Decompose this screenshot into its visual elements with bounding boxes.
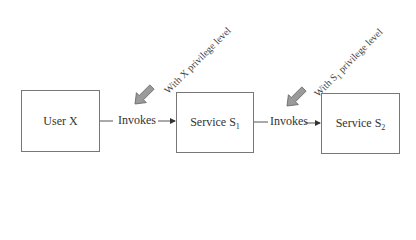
node-service-s2: Service S2 bbox=[321, 93, 400, 154]
node-user-x: User X bbox=[21, 90, 100, 152]
node-label: Service S1 bbox=[190, 115, 240, 131]
node-label: Service S2 bbox=[336, 116, 386, 132]
node-label: User X bbox=[43, 114, 77, 129]
node-service-s1: Service S1 bbox=[176, 92, 254, 153]
edge-label-invokes: Invokes bbox=[270, 114, 308, 129]
callout-arrow-icon bbox=[282, 84, 309, 111]
callout-arrow-icon bbox=[130, 82, 157, 109]
edge-label-invokes: Invokes bbox=[118, 113, 156, 128]
